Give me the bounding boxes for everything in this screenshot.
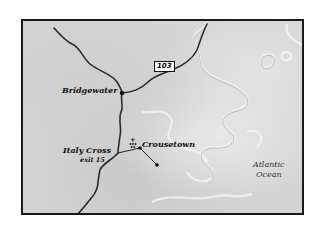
road-crousetown-south	[140, 148, 157, 165]
cemetery-icon	[130, 138, 137, 148]
map-canvas	[23, 21, 304, 215]
label-exit-15: exit 15	[80, 156, 105, 164]
label-italy-cross: Italy Cross	[63, 145, 111, 155]
road-crousetown	[118, 148, 140, 153]
bridgewater-dot	[120, 91, 125, 96]
ocean-line-2: Ocean	[253, 170, 285, 180]
label-atlantic-ocean: Atlantic Ocean	[253, 160, 285, 180]
label-bridgewater: Bridgewater	[62, 85, 117, 95]
ocean-line-1: Atlantic	[253, 160, 285, 170]
map-frame	[21, 19, 304, 215]
route-103-shield: 103	[154, 61, 175, 72]
endpoint-dot	[155, 163, 159, 167]
road-north	[54, 28, 122, 93]
road-103	[122, 24, 207, 93]
roads	[54, 24, 207, 215]
coastline-shadow	[194, 24, 275, 178]
label-crousetown: Crousetown	[142, 139, 195, 149]
road-bridgewater-italycross	[118, 93, 122, 153]
